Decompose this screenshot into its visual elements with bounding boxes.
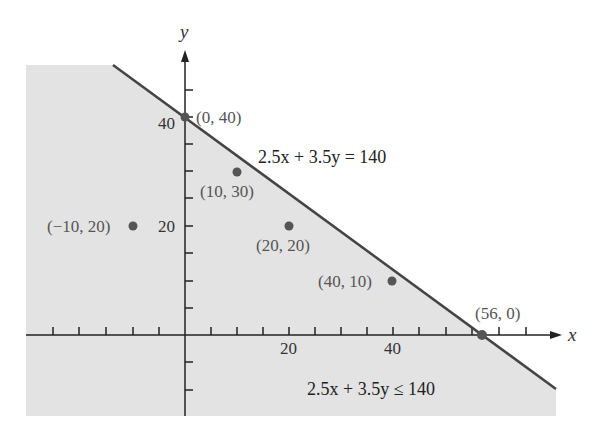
y-tick-label-20: 20 — [158, 217, 175, 236]
point-40-10 — [388, 277, 397, 286]
x-tick-label-20: 20 — [280, 339, 297, 358]
point-0-40 — [181, 113, 190, 122]
point-20-20 — [285, 222, 294, 231]
point-label-56-0: (56, 0) — [475, 304, 520, 323]
inequality-label: 2.5x + 3.5y ≤ 140 — [307, 379, 435, 399]
point-label-neg10-20: (−10, 20) — [47, 217, 110, 236]
y-tick-label-40: 40 — [158, 114, 175, 133]
x-axis-arrow-icon — [550, 331, 562, 339]
point-label-20-20: (20, 20) — [256, 236, 310, 255]
equation-label: 2.5x + 3.5y = 140 — [258, 147, 386, 167]
graph-figure: x 20 40 y 40 20 — [0, 0, 601, 444]
point-10-30 — [233, 168, 242, 177]
point-label-10-30: (10, 30) — [200, 182, 254, 201]
x-tick-label-40: 40 — [384, 339, 401, 358]
x-axis-label: x — [567, 324, 577, 345]
point-label-40-10: (40, 10) — [318, 272, 372, 291]
y-axis-arrow-icon — [181, 50, 189, 62]
point-neg10-20 — [129, 222, 138, 231]
y-axis-label: y — [178, 21, 189, 42]
point-label-0-40: (0, 40) — [196, 108, 241, 127]
point-56-0 — [477, 330, 487, 340]
